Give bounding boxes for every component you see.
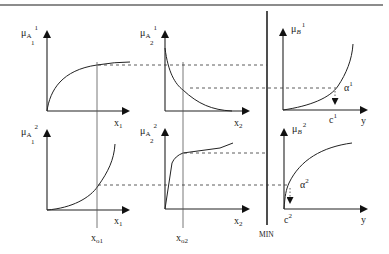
membership-curve <box>165 48 232 111</box>
y-label-sub: 2 <box>150 39 154 47</box>
x-label: x2 <box>234 117 243 130</box>
crisp-input-x2-label: xo2 <box>176 232 189 245</box>
panel-mu-a21: μA1 2 x2 <box>140 24 248 130</box>
x-label: x1 <box>114 215 123 228</box>
y-label: μA2 <box>21 123 38 139</box>
membership-curve <box>47 62 130 111</box>
panel-mu-a22: μA2 2 x2 <box>140 122 248 228</box>
alpha-label: α2 <box>300 177 309 190</box>
y-label: μB2 <box>292 121 307 136</box>
panel-mu-a11: μA1 1 x1 <box>21 24 130 130</box>
alpha-label: α1 <box>344 80 353 93</box>
x-label: x2 <box>234 215 243 228</box>
x-label: y <box>361 214 366 225</box>
y-label: μA1 <box>140 24 157 40</box>
panel-mu-a12: μA2 1 x1 <box>21 123 128 228</box>
y-label: μA2 <box>140 122 157 138</box>
panel-mu-b2: μB2 α2 c2 y <box>284 121 366 225</box>
panel-mu-b1: μB1 α1 c1 y <box>283 21 366 126</box>
c-label: c2 <box>284 212 292 225</box>
c-label: c1 <box>329 112 337 125</box>
y-label-sub: 1 <box>31 138 35 146</box>
y-label: μA1 <box>21 24 38 40</box>
y-label: μB1 <box>291 21 306 36</box>
membership-curve <box>47 144 115 210</box>
x-label: x1 <box>114 117 123 130</box>
membership-curve <box>283 44 353 110</box>
y-label-sub: 2 <box>150 137 154 145</box>
y-label-sub: 1 <box>31 39 35 47</box>
membership-curve <box>284 143 352 209</box>
x-label: y <box>361 115 366 126</box>
crisp-input-x1-label: xo1 <box>91 232 104 245</box>
min-operator-label: MIN <box>259 230 274 239</box>
fuzzy-inference-diagram: μA1 1 x1 μA1 2 x2 μB1 α1 c1 y μA2 1 x1 μ… <box>0 0 389 254</box>
